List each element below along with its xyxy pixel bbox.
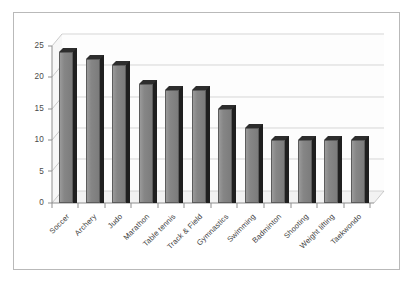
plot-area: 0510152025 SoccerArcheryJudoMarathonTabl… [14, 13, 401, 271]
x-axis-category-labels: SoccerArcheryJudoMarathonTable tennisTra… [14, 13, 401, 271]
chart-frame: 0510152025 SoccerArcheryJudoMarathonTabl… [13, 12, 400, 270]
